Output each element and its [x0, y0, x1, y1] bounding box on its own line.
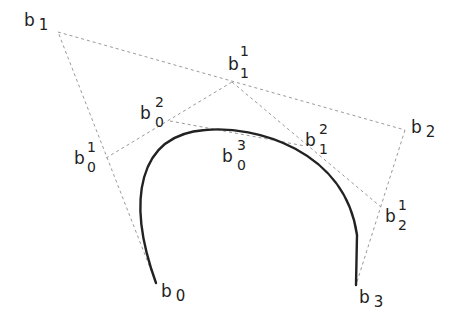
label-base: b	[385, 208, 396, 225]
label-base: b	[24, 10, 35, 30]
label-subscript: 1	[39, 16, 49, 34]
label-b2: b2	[411, 119, 435, 136]
label-superscript: 2	[319, 122, 328, 136]
label-superscript: 1	[398, 198, 407, 212]
label-subscript: 0	[155, 115, 164, 129]
label-base: b	[359, 287, 370, 307]
label-b3: b3	[359, 289, 383, 306]
label-superscript: 1	[240, 44, 249, 58]
label-subscript: 0	[87, 160, 96, 174]
label-subscript: 2	[398, 218, 407, 232]
label-base: b	[411, 117, 422, 137]
label-b1-2: b 2 1	[305, 125, 335, 161]
label-base: b	[228, 56, 239, 73]
label-base: b	[140, 105, 151, 122]
label-b0-2: b 2 0	[140, 98, 170, 134]
label-superscript: 2	[155, 95, 164, 109]
label-subscript: 0	[237, 158, 246, 172]
label-superscript: 1	[87, 140, 96, 154]
label-base: b	[74, 150, 85, 167]
label-subscript: 1	[319, 142, 328, 156]
label-b0-3: b 3 0	[222, 141, 252, 177]
label-subscript: 1	[240, 66, 249, 80]
label-base: b	[161, 281, 172, 301]
label-b0-1: b 1 0	[74, 140, 104, 176]
label-b2-1: b 1 2	[385, 201, 415, 237]
label-subscript: 3	[374, 293, 384, 311]
label-base: b	[222, 148, 233, 165]
label-subscript: 0	[176, 287, 186, 305]
label-b1-1: b 1 1	[228, 44, 258, 80]
label-superscript: 3	[237, 138, 246, 152]
label-b1: b1	[24, 12, 48, 29]
label-subscript: 2	[426, 123, 436, 141]
label-b0: b0	[161, 283, 185, 300]
label-base: b	[305, 132, 316, 149]
